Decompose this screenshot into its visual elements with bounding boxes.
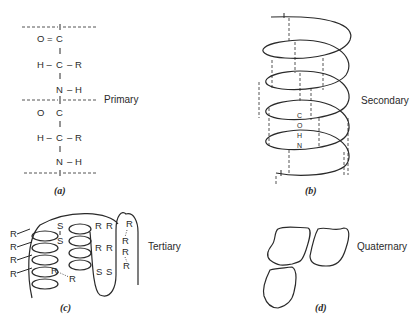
caption-d: (d) [315,302,327,314]
caption-b: (b) [305,185,317,197]
atom-label: O [37,107,44,118]
r-group: R [123,260,130,271]
sulfur-atom: S [57,235,63,246]
r-group: R [51,265,58,276]
subunit [310,228,349,266]
atom-label: C [56,33,63,44]
hbond-atom: C [297,112,302,119]
r-group: R [10,228,17,239]
quaternary-label: Quaternary [357,241,407,252]
caption-a: (a) [54,185,66,197]
subunit [268,227,310,265]
primary-label: Primary [104,94,138,105]
r-group: R [95,242,102,253]
sulfur-atom: S [57,220,63,231]
sulfur-atom: S [96,266,102,277]
protein-structure-diagram: O = C H – C – R N – H Primary O C H – C … [0,0,419,327]
hbond-atom: H [297,132,302,139]
panel-primary: O = C H – C – R N – H Primary O C H – C … [22,24,138,197]
r-group: R [106,220,113,231]
subunit [263,267,296,308]
atom-label: – H [67,84,82,95]
hbond-atom: O [297,122,303,129]
atom-label: N [56,84,63,95]
atom-label: – H [67,156,82,167]
r-group: R [126,218,133,229]
atom-label: – R [67,59,82,70]
r-group: R [95,220,102,231]
helix-turn [263,17,351,59]
r-group: R [122,235,129,246]
caption-c: (c) [60,302,71,314]
atom-label: N [56,156,63,167]
panel-secondary: C O H N Secondary (b) [259,13,409,197]
r-group: R [10,254,17,265]
r-group: R [10,241,17,252]
r-group: R [69,273,76,284]
r-group: R [10,268,17,279]
atom-label: C [56,132,63,143]
atom-label: H – [37,132,53,143]
secondary-label: Secondary [361,95,409,106]
atom-label: C [56,107,63,118]
sulfur-atom: S [106,266,112,277]
r-group: R [122,246,129,257]
atom-label: O = [37,33,53,44]
panel-quaternary: Quaternary (d) [263,227,407,314]
r-group: R [106,242,113,253]
hbond-atom: N [297,142,302,149]
atom-label: H – [37,59,53,70]
panel-tertiary: R R R R S S R R R R R R S S R R R R Tert… [10,213,181,314]
tertiary-label: Tertiary [148,241,181,252]
atom-label: C [56,59,63,70]
atom-label: – R [67,132,82,143]
